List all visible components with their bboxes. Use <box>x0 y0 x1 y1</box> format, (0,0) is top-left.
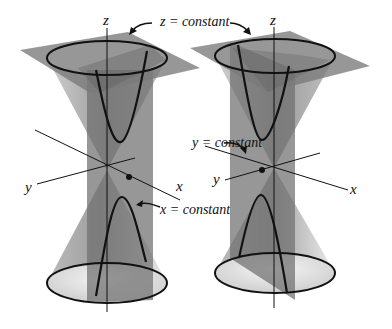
z-const-annotation: z = constant <box>129 14 251 35</box>
right-x-label: x <box>349 181 357 197</box>
right-figure: z y x y = constant <box>190 12 370 308</box>
z-const-arrow-right <box>230 23 248 31</box>
left-z-label: z <box>102 12 109 28</box>
left-point <box>126 174 132 180</box>
left-figure: z y x x = constant <box>20 12 231 312</box>
right-y-label: y <box>211 171 220 187</box>
left-y-label: y <box>23 179 32 195</box>
z-const-label-text: z = constant <box>159 14 230 29</box>
x-const-label-text: x = constant <box>159 202 231 217</box>
right-point <box>259 167 265 173</box>
right-z-label: z <box>269 12 276 28</box>
double-cone-figure: z y x x = constant z y x <box>0 0 392 329</box>
z-const-label: z = constant <box>159 14 230 29</box>
left-x-label: x <box>175 178 183 194</box>
x-const-label: x = constant <box>159 202 231 217</box>
